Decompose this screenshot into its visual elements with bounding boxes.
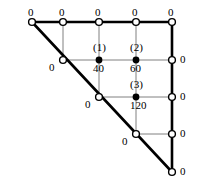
interior-node-value-n2: 60 [130, 63, 141, 74]
interior-node-value-n3: 120 [130, 100, 147, 111]
boundary-value-label-r3: 0 [180, 128, 186, 139]
boundary-value-label-t2: 0 [95, 7, 101, 18]
interior-node-tag-n1: (1) [93, 42, 106, 53]
boundary-node-t2 [96, 19, 103, 26]
interior-node-tag-n3: (3) [130, 79, 143, 90]
boundary-value-label-t1: 0 [59, 7, 65, 18]
boundary-value-label-h1: 0 [49, 62, 55, 73]
boundary-node-r3 [169, 131, 176, 138]
boundary-node-t4 [169, 19, 176, 26]
boundary-value-label-t4: 0 [168, 7, 174, 18]
boundary-value-label-r4: 0 [180, 166, 186, 177]
boundary-node-h2 [96, 94, 103, 101]
boundary-node-h1 [60, 57, 67, 64]
boundary-node-t0 [29, 19, 36, 26]
boundary-node-r4 [169, 169, 176, 176]
boundary-node-h3 [133, 131, 140, 138]
interior-grid-lines [63, 22, 172, 134]
interior-node-tag-n2: (2) [130, 42, 143, 53]
mesh-figure: 000000000000(1)40(2)60(3)120 [0, 0, 197, 188]
boundary-value-label-t3: 0 [132, 7, 138, 18]
boundary-node-t3 [133, 19, 140, 26]
boundary-node-r2 [169, 94, 176, 101]
boundary-node-r1 [169, 57, 176, 64]
boundary-value-label-r1: 0 [180, 54, 186, 65]
interior-node-value-n1: 40 [93, 63, 104, 74]
boundary-value-label-t0: 0 [28, 7, 34, 18]
mesh-diagram-canvas [0, 0, 197, 188]
boundary-node-t1 [60, 19, 67, 26]
boundary-value-label-r2: 0 [180, 91, 186, 102]
boundary-value-label-h2: 0 [85, 99, 91, 110]
boundary-value-label-h3: 0 [122, 136, 128, 147]
